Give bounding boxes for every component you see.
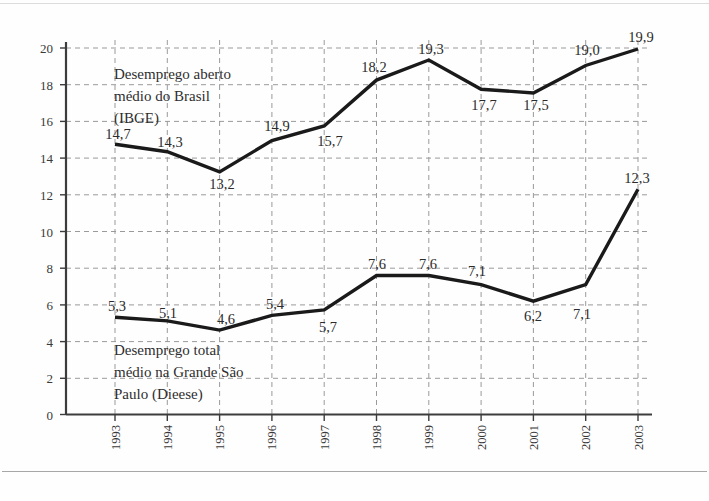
data-label: 19,0 <box>574 42 599 58</box>
data-label: 6,2 <box>524 308 542 324</box>
data-label: 17,5 <box>523 97 548 113</box>
x-axis-tick-labels: 1993 1994 1995 1996 1997 1998 1999 2000 … <box>109 424 646 450</box>
y-tick-label: 14 <box>40 151 54 166</box>
data-label: 5,7 <box>319 319 337 335</box>
data-label: 5,3 <box>108 298 126 314</box>
y-tick-label: 18 <box>40 78 53 93</box>
data-label: 17,7 <box>471 97 496 113</box>
x-tick-label-1994: 1994 <box>161 424 175 450</box>
annotation-line: médio do Brasil <box>114 88 210 104</box>
y-tick-label: 4 <box>47 335 54 350</box>
data-label: 7,6 <box>419 256 437 272</box>
x-tick-label-2002: 2002 <box>579 425 593 450</box>
data-label: 15,7 <box>317 133 342 149</box>
annotation-line: (IBGE) <box>114 110 159 127</box>
data-label: 14,7 <box>105 126 130 142</box>
x-tick-label-2001: 2001 <box>527 425 541 450</box>
y-tick-label: 20 <box>40 41 53 56</box>
y-tick-label: 2 <box>47 371 54 386</box>
annotation-line: Desemprego total <box>114 342 220 358</box>
data-label: 12,3 <box>624 170 649 186</box>
x-tick-label-1999: 1999 <box>422 425 436 450</box>
x-tick-label-1995: 1995 <box>213 425 227 450</box>
x-tick-label-1996: 1996 <box>265 425 279 450</box>
upper-series-annotation: Desemprego aberto médio do Brasil (IBGE) <box>114 66 231 127</box>
data-label: 5,1 <box>159 305 177 321</box>
annotation-line: Desemprego aberto <box>114 66 231 82</box>
figure-page: 20 18 16 14 12 10 8 6 4 2 0 1993 1994 19… <box>0 0 709 501</box>
data-label: 7,6 <box>368 256 386 272</box>
y-tick-label: 6 <box>47 298 54 313</box>
data-label: 5,4 <box>266 296 285 312</box>
data-label: 7,1 <box>573 306 591 322</box>
data-label: 14,3 <box>157 134 182 150</box>
y-tick-label: 8 <box>47 261 54 276</box>
series-labels-ibge: 14,7 14,3 13,2 14,9 15,7 18,2 19,3 17,7 … <box>105 29 653 192</box>
x-tick-label-2000: 2000 <box>475 425 489 450</box>
x-tick-label-1998: 1998 <box>370 425 384 450</box>
data-label: 4,6 <box>217 311 235 327</box>
annotation-line: Paulo (Dieese) <box>114 386 203 403</box>
data-label: 19,9 <box>628 29 653 45</box>
annotation-line: médio na Grande São <box>114 364 244 380</box>
data-label: 19,3 <box>418 41 443 57</box>
data-label: 13,2 <box>209 176 234 192</box>
bottom-divider-rule <box>2 471 707 472</box>
data-label: 14,9 <box>264 118 289 134</box>
y-axis-tick-labels: 20 18 16 14 12 10 8 6 4 2 0 <box>40 41 54 423</box>
y-tick-label: 10 <box>40 225 53 240</box>
x-tick-label-1997: 1997 <box>318 425 332 450</box>
y-tick-label: 16 <box>40 114 54 129</box>
y-tick-label: 0 <box>47 408 54 423</box>
lower-series-annotation: Desemprego total médio na Grande São Pau… <box>114 342 244 403</box>
data-label: 7,1 <box>468 263 486 279</box>
x-tick-label-1993: 1993 <box>109 425 123 450</box>
x-tick-label-2003: 2003 <box>632 425 646 450</box>
series-labels-dieese: 5,3 5,1 4,6 5,4 5,7 7,6 7,6 7,1 6,2 7,1 … <box>108 170 650 335</box>
data-label: 18,2 <box>361 59 386 75</box>
y-tick-label: 12 <box>40 188 53 203</box>
line-chart: 20 18 16 14 12 10 8 6 4 2 0 1993 1994 19… <box>0 0 709 501</box>
